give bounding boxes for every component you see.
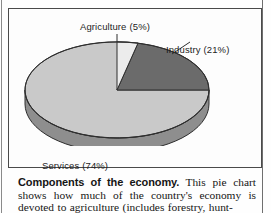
pie-chart: Agriculture(5%) Industry(21%) Services(7… [8, 8, 262, 168]
pie-label-agriculture: Agriculture(5%) [80, 21, 150, 32]
pie-label-services: Services(74%) [42, 160, 108, 171]
pie-label-industry-value: (21%) [204, 44, 230, 55]
caption-lede: Components of the economy. [18, 176, 179, 188]
pie-label-industry: Industry(21%) [166, 44, 229, 55]
figure-caption: Components of the economy. This pie char… [18, 176, 256, 213]
page-column-rule-right [262, 0, 263, 213]
pie-label-agriculture-value: (5%) [130, 21, 150, 32]
pie-label-industry-name: Industry [166, 44, 201, 55]
pie-label-agriculture-name: Agriculture [80, 21, 127, 32]
pie-label-services-name: Services [42, 160, 79, 171]
page-column-rule-left [1, 0, 2, 213]
figure-page: Agriculture(5%) Industry(21%) Services(7… [0, 0, 271, 213]
pie-label-services-value: (74%) [82, 160, 108, 171]
